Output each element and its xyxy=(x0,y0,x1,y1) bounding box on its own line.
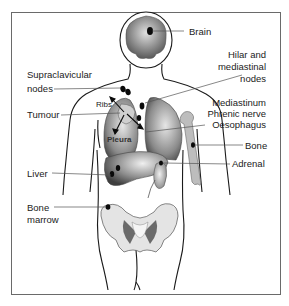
label-tumour: Tumour xyxy=(27,109,59,121)
label-oesophagus: Oesophagus xyxy=(196,119,266,131)
hilar-node xyxy=(137,115,141,121)
bone-marrow-lesion xyxy=(106,204,111,210)
brain-organ xyxy=(126,16,166,59)
label-bone-marrow-line1: Bone xyxy=(27,202,49,214)
pelvis-bone xyxy=(101,204,178,252)
label-supraclavicular-line2: nodes xyxy=(27,83,53,95)
bone-lesion xyxy=(191,142,195,148)
adrenal-lesion xyxy=(159,160,163,165)
label-hilar-line3: nodes xyxy=(216,73,266,85)
label-pleura: Pleura xyxy=(107,134,131,146)
label-phrenic-nerve: Phrenic nerve xyxy=(196,108,266,120)
label-adrenal: Adrenal xyxy=(232,158,265,170)
label-brain: Brain xyxy=(189,26,211,38)
label-mediastinum: Mediastinum xyxy=(196,97,266,109)
label-supraclavicular-line1: Supraclavicular xyxy=(27,69,92,81)
label-bone-marrow-line2: marrow xyxy=(27,214,59,226)
label-liver: Liver xyxy=(27,168,48,180)
label-hilar-line1: Hilar and xyxy=(216,49,266,61)
label-bone: Bone xyxy=(245,140,267,152)
lungs xyxy=(104,97,182,160)
body-diagram xyxy=(0,0,289,306)
label-hilar-line2: mediastinal xyxy=(206,61,266,73)
liver-lesion xyxy=(116,165,120,171)
liver-lesion xyxy=(110,171,114,177)
hilar-node xyxy=(140,103,145,110)
label-ribs: Ribs xyxy=(96,99,112,111)
